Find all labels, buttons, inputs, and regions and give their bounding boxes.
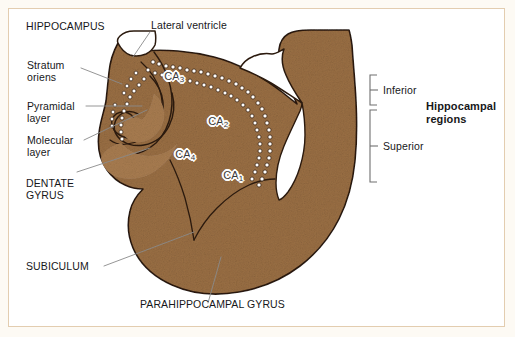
label-ca3-text: CA	[164, 70, 179, 82]
label-ca1: CA1	[205, 157, 243, 193]
label-stratum-oriens-line1: Stratum	[27, 59, 64, 72]
label-bracket-inferior: Inferior	[383, 84, 416, 97]
hippocampal-region-brackets	[370, 75, 378, 182]
label-ca4-sub: 4	[191, 153, 195, 162]
label-lateral-ventricle: Lateral ventricle	[151, 19, 227, 32]
label-ca3: CA3	[146, 58, 184, 94]
label-ca2-sub: 2	[224, 120, 228, 129]
label-hippocampal-regions-line1: Hippocampal	[426, 100, 496, 113]
label-molecular-layer-line1: Molecular	[27, 134, 73, 147]
figure-stage: HIPPOCAMPUS Lateral ventricle Stratum or…	[0, 0, 515, 337]
label-ca4-text: CA	[175, 148, 190, 160]
label-pyramidal-layer-line1: Pyramidal	[27, 100, 75, 113]
hippocampus-illustration	[0, 0, 515, 337]
label-dentate-gyrus-line2: GYRUS	[26, 189, 64, 202]
label-ca1-text: CA	[223, 169, 238, 181]
label-hippocampal-regions-line2: regions	[426, 113, 466, 126]
label-stratum-oriens-line2: oriens	[27, 71, 56, 84]
label-molecular-layer-line2: layer	[27, 146, 50, 159]
page-title-hippocampus: HIPPOCAMPUS	[26, 20, 105, 33]
figure-root: HIPPOCAMPUS Lateral ventricle Stratum or…	[0, 0, 515, 337]
label-ca2: CA2	[190, 103, 228, 139]
label-ca4: CA4	[157, 136, 195, 172]
label-bracket-superior: Superior	[383, 140, 424, 153]
label-ca1-sub: 1	[239, 174, 243, 183]
label-dentate-gyrus-line1: DENTATE	[26, 177, 74, 190]
label-pyramidal-layer-line2: layer	[27, 112, 50, 125]
label-subiculum: SUBICULUM	[26, 260, 89, 273]
label-ca2-text: CA	[208, 115, 223, 127]
label-ca3-sub: 3	[180, 75, 184, 84]
label-parahippocampal-gyrus: PARAHIPPOCAMPAL GYRUS	[140, 298, 285, 311]
